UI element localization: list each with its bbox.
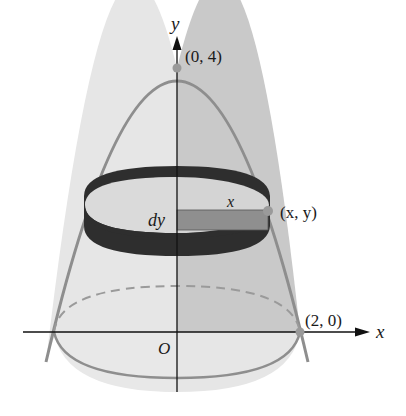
point-label: (x, y)	[280, 203, 317, 222]
y-axis-label: y	[169, 13, 180, 34]
paraboloid-diagram: y x (0, 4) (2, 0) O (x, y) x dy	[0, 0, 406, 416]
y-axis-arrow-icon	[173, 36, 182, 50]
radius-label: x	[226, 193, 234, 210]
figure: y x (0, 4) (2, 0) O (x, y) x dy	[0, 0, 406, 416]
base-disk-front-right	[177, 332, 300, 392]
base-point	[296, 328, 305, 337]
curve-point	[263, 206, 273, 216]
x-axis-label: x	[375, 321, 385, 342]
apex-point	[173, 64, 182, 73]
apex-label: (0, 4)	[185, 47, 222, 66]
radius-strip	[177, 210, 268, 230]
thickness-label: dy	[148, 210, 165, 230]
origin-label: O	[158, 339, 170, 358]
x-axis-arrow-icon	[355, 328, 370, 337]
base-point-label: (2, 0)	[305, 311, 342, 330]
